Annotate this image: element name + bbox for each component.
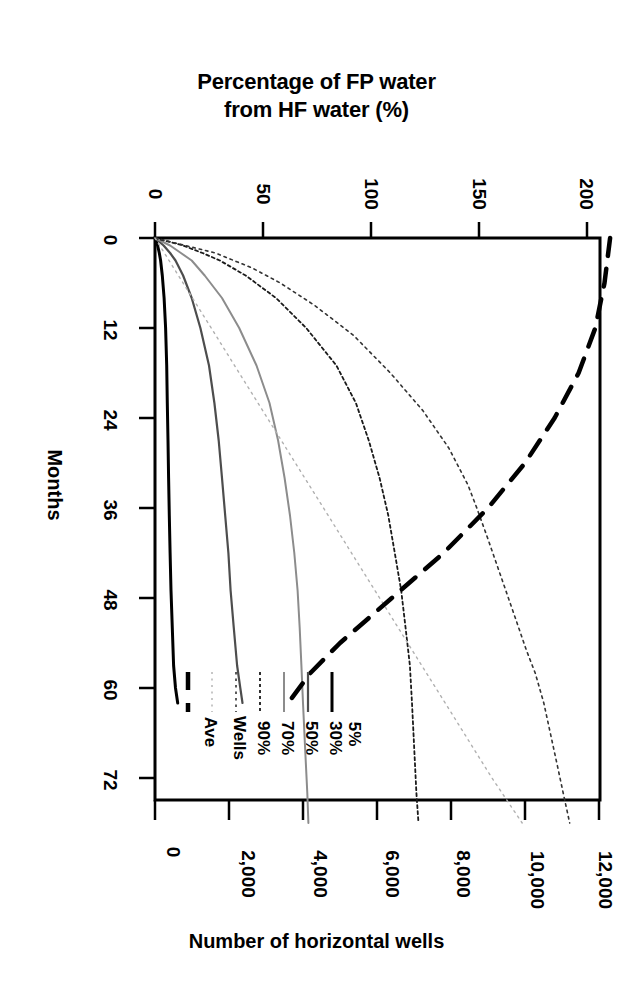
- data-curves: [155, 238, 610, 823]
- months-axis-ticks: [139, 238, 155, 778]
- series-wells: [155, 238, 522, 823]
- series-50pct: [155, 238, 308, 823]
- plot-frame: [155, 238, 600, 800]
- series-90pct: [155, 238, 570, 823]
- chart-figure: Percentage of FP water from HF water (%)…: [0, 0, 633, 1005]
- top-axis-ticks: [155, 222, 587, 238]
- wells-axis-ticks: [155, 800, 599, 820]
- plot-area: [0, 0, 633, 1005]
- series-ave: [288, 238, 610, 703]
- legend-swatches: [188, 672, 332, 712]
- series-70pct: [155, 238, 419, 823]
- series-5pct: [155, 238, 178, 703]
- axes-group: [139, 222, 600, 820]
